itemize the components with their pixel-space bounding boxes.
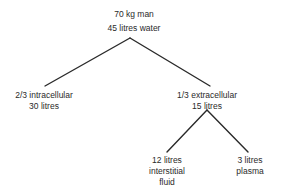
intracellular-fraction: 2/3 intracellular	[15, 90, 73, 101]
plasma-volume: 3 litres	[236, 155, 263, 166]
extracellular-fraction: 1/3 extracellular	[177, 90, 237, 101]
interstitial-name: interstitial	[149, 166, 185, 177]
root-node-title: 70 kg man	[108, 9, 161, 20]
connector-root-to-extracellular	[130, 38, 210, 86]
connector-extracellular-to-interstitial	[167, 110, 207, 152]
interstitial-node-label: 12 litres interstitial fluid	[149, 155, 185, 188]
connector-root-to-intracellular	[45, 38, 130, 86]
extracellular-volume: 15 litres	[177, 101, 237, 112]
plasma-node-label: 3 litres plasma	[236, 155, 263, 177]
root-node-volume: 45 litres water	[108, 23, 161, 34]
connector-extracellular-to-plasma	[207, 110, 248, 152]
plasma-name: plasma	[236, 166, 263, 177]
extracellular-node-label: 1/3 extracellular 15 litres	[177, 90, 237, 112]
interstitial-name-suffix: fluid	[149, 177, 185, 188]
intracellular-node-label: 2/3 intracellular 30 litres	[15, 90, 73, 112]
root-node-label: 70 kg man 45 litres water	[108, 9, 161, 34]
interstitial-volume: 12 litres	[149, 155, 185, 166]
intracellular-volume: 30 litres	[15, 101, 73, 112]
